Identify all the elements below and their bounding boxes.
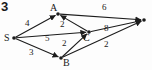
figure-container: 3 SABC 45322682: [0, 0, 152, 70]
graph-edge-s-b: [16, 39, 58, 57]
edge-weight-s-b: 3: [29, 48, 34, 57]
edge-weight-c-t: 8: [104, 24, 109, 33]
node-label-a: A: [50, 3, 57, 13]
graph-edge-c-t: [91, 21, 141, 32]
node-label-s: S: [4, 33, 10, 43]
edge-weight-b-t: 2: [104, 40, 109, 49]
graph-node-t: [142, 18, 146, 22]
edge-weight-s-a: 4: [25, 19, 30, 28]
edge-weight-a-t: 6: [102, 3, 107, 12]
node-label-b: B: [63, 58, 70, 68]
edge-weight-s-c: 5: [45, 34, 50, 43]
graph-edge-c-a: [61, 16, 87, 31]
graph-edge-s-c: [16, 32, 86, 38]
graph-node-s: [12, 36, 16, 40]
graph-edge-b-t: [63, 21, 141, 57]
graph-edge-a-t: [60, 14, 141, 20]
node-label-c: C: [83, 33, 90, 43]
edge-weight-c-a: 2: [60, 20, 65, 29]
edge-weight-b-c: 2: [62, 39, 67, 48]
graph-canvas: [0, 0, 152, 70]
edge-layer: [16, 14, 141, 57]
